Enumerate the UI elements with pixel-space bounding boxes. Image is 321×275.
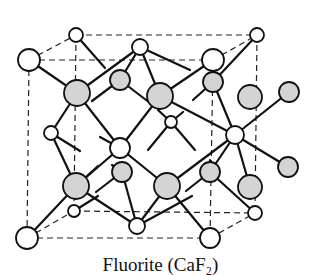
anion-atom [279,82,299,102]
figure-caption: Fluorite (CaF₂) [0,255,321,275]
cation-atom [200,228,220,248]
anion-atom [238,175,262,199]
anion-atom [238,85,262,109]
anion-atom [110,70,130,90]
cation-atom [132,39,148,55]
anion-atom [112,162,132,182]
cation-atom [68,205,80,217]
cation-atom [226,126,244,144]
cation-atom [165,116,177,128]
anion-atom [200,162,220,182]
anion-atom [63,173,89,199]
anion-atom [64,80,90,106]
anion-atom [147,83,173,109]
cation-atom [69,28,83,42]
cation-atom [250,28,264,42]
cation-atom [18,49,40,71]
cation-atom [44,126,58,140]
anion-atom [203,72,223,92]
cation-atom [202,49,224,71]
anion-atom [154,173,180,199]
cations [16,28,264,249]
cation-atom [129,218,145,234]
cation-atom [248,206,262,220]
cation-atom [110,138,130,158]
anion-atom [278,157,298,177]
cation-atom [16,227,38,249]
